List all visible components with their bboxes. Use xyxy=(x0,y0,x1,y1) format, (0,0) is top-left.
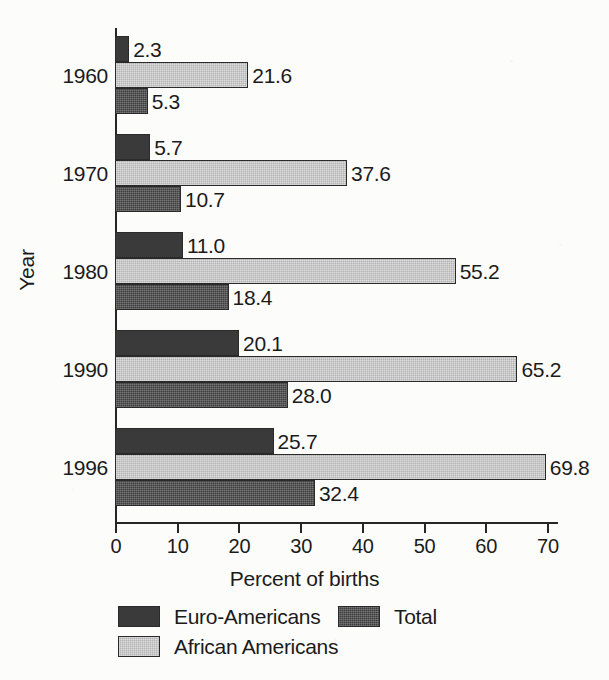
bar-value-label: 28.0 xyxy=(292,383,332,408)
bar-total[interactable] xyxy=(115,382,288,408)
bar-value-label: 11.0 xyxy=(187,233,225,258)
bar-euro-americans[interactable] xyxy=(115,330,239,356)
bar-total[interactable] xyxy=(115,186,181,212)
y-axis-category-label-1960: 1960 xyxy=(28,63,108,88)
chart-figure: Year 010203040506070 1960197019801990199… xyxy=(0,0,609,680)
y-axis-category-label-1980: 1980 xyxy=(28,259,108,284)
bar-value-label: 5.7 xyxy=(154,135,182,160)
plot-area: 2.321.65.35.737.610.711.055.218.420.165.… xyxy=(115,28,547,524)
bar-value-label: 5.3 xyxy=(152,89,180,114)
x-tick-mark xyxy=(424,524,426,533)
x-tick-mark xyxy=(300,524,302,533)
bar-value-label: 25.7 xyxy=(278,429,318,454)
legend-swatch-icon xyxy=(118,636,160,657)
y-axis-category-label-1990: 1990 xyxy=(28,357,108,382)
bar-total[interactable] xyxy=(115,88,148,114)
x-tick-label: 20 xyxy=(217,534,261,558)
bar-value-label: 18.4 xyxy=(233,285,273,310)
x-tick-mark xyxy=(115,524,117,533)
bar-african-americans[interactable] xyxy=(115,160,347,186)
legend-swatch-icon xyxy=(338,606,380,627)
bar-value-label: 21.6 xyxy=(252,63,292,88)
bar-group: 11.055.218.4 xyxy=(115,232,547,310)
bar-value-label: 69.8 xyxy=(550,455,590,480)
bar-total[interactable] xyxy=(115,284,229,310)
y-axis-category-label-1970: 1970 xyxy=(28,161,108,186)
legend-swatch-icon xyxy=(118,606,160,627)
bar-euro-americans[interactable] xyxy=(115,134,150,160)
x-tick-mark xyxy=(238,524,240,533)
legend-label: African Americans xyxy=(174,634,338,659)
bar-african-americans[interactable] xyxy=(115,454,546,480)
x-tick-mark xyxy=(547,524,549,533)
x-tick-mark xyxy=(362,524,364,533)
bar-euro-americans[interactable] xyxy=(115,428,274,454)
x-tick-label: 50 xyxy=(403,534,447,558)
x-axis-title: Percent of births xyxy=(0,566,609,591)
legend-label: Euro-Americans xyxy=(174,604,320,629)
bar-value-label: 32.4 xyxy=(319,481,359,506)
bar-value-label: 20.1 xyxy=(243,331,283,356)
y-axis-category-label-1996: 1996 xyxy=(28,455,108,480)
bar-african-americans[interactable] xyxy=(115,258,456,284)
x-tick-label: 0 xyxy=(94,534,138,558)
bar-group: 2.321.65.3 xyxy=(115,36,547,114)
bar-total[interactable] xyxy=(115,480,315,506)
x-tick-label: 70 xyxy=(526,534,570,558)
x-tick-label: 30 xyxy=(279,534,323,558)
bar-value-label: 65.2 xyxy=(521,357,561,382)
bar-african-americans[interactable] xyxy=(115,62,248,88)
bar-african-americans[interactable] xyxy=(115,356,517,382)
bar-value-label: 2.3 xyxy=(133,37,161,62)
x-tick-mark xyxy=(485,524,487,533)
bar-group: 20.165.228.0 xyxy=(115,330,547,408)
bar-group: 25.769.832.4 xyxy=(115,428,547,506)
bar-euro-americans[interactable] xyxy=(115,36,129,62)
bar-value-label: 10.7 xyxy=(185,187,225,212)
x-tick-mark xyxy=(177,524,179,533)
x-tick-label: 40 xyxy=(341,534,385,558)
bar-group: 5.737.610.7 xyxy=(115,134,547,212)
x-tick-label: 10 xyxy=(156,534,200,558)
x-tick-label: 60 xyxy=(464,534,508,558)
bar-euro-americans[interactable] xyxy=(115,232,183,258)
bar-value-label: 37.6 xyxy=(351,161,391,186)
bar-value-label: 55.2 xyxy=(460,259,500,284)
legend-label: Total xyxy=(394,604,437,629)
chart-legend: Euro-AmericansTotalAfrican Americans xyxy=(0,604,609,668)
